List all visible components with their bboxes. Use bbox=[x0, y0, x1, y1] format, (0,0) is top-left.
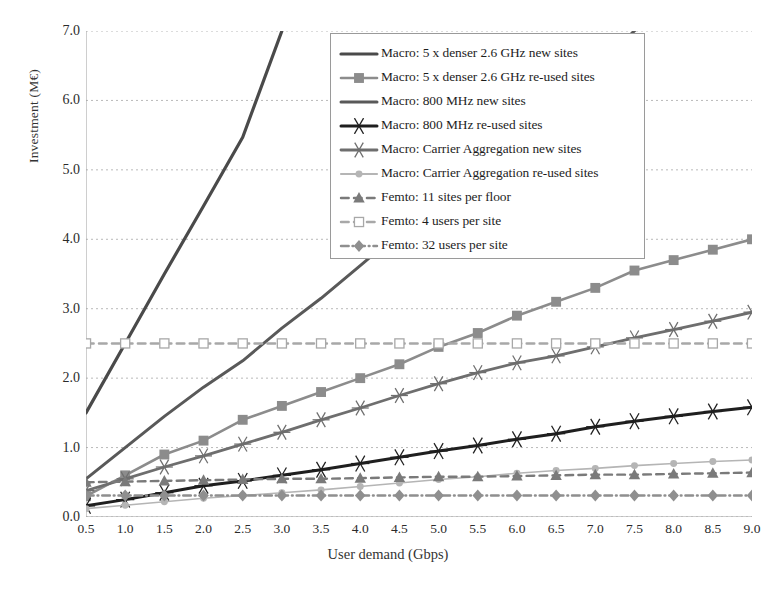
data-point-marker bbox=[199, 436, 209, 446]
series-6 bbox=[86, 467, 752, 487]
data-point-marker bbox=[391, 388, 408, 403]
legend-label: Macro: Carrier Aggregation new sites bbox=[381, 141, 582, 157]
legend-swatch bbox=[339, 166, 379, 180]
data-point-marker bbox=[350, 143, 367, 158]
data-point-marker bbox=[669, 255, 679, 265]
legend-item[interactable]: Femto: 32 users per site bbox=[339, 233, 638, 257]
data-point-marker bbox=[704, 314, 721, 329]
legend-swatch bbox=[339, 214, 379, 228]
data-point-marker bbox=[355, 373, 365, 383]
data-point-marker bbox=[670, 460, 677, 467]
legend-label: Femto: 4 users per site bbox=[381, 213, 501, 229]
x-tick-label: 0.5 bbox=[78, 521, 95, 537]
data-point-marker bbox=[350, 118, 368, 134]
data-point-marker bbox=[473, 339, 482, 348]
data-point-marker bbox=[625, 413, 643, 429]
data-point-marker bbox=[747, 339, 752, 348]
data-point-marker bbox=[121, 339, 130, 348]
x-tick-label: 8.5 bbox=[704, 521, 721, 537]
data-point-marker bbox=[668, 490, 678, 502]
legend-swatch-icon bbox=[339, 166, 379, 182]
data-point-marker bbox=[508, 355, 525, 370]
legend-label: Macro: 800 MHz re-used sites bbox=[381, 117, 542, 133]
x-tick-label: 1.0 bbox=[117, 521, 134, 537]
legend-swatch bbox=[339, 142, 379, 156]
data-point-marker bbox=[512, 490, 522, 502]
legend-swatch-icon bbox=[339, 46, 379, 62]
data-point-marker bbox=[356, 171, 363, 178]
legend-label: Macro: 800 MHz new sites bbox=[381, 93, 526, 109]
legend-item[interactable]: Macro: Carrier Aggregation new sites bbox=[339, 137, 638, 161]
x-tick-label: 3.0 bbox=[273, 521, 290, 537]
data-point-marker bbox=[234, 437, 251, 452]
x-tick-label: 7.5 bbox=[626, 521, 643, 537]
legend-swatch-icon bbox=[339, 70, 379, 86]
data-point-marker bbox=[551, 490, 561, 502]
data-point-marker bbox=[316, 339, 325, 348]
y-tick-label: 6.0 bbox=[63, 92, 81, 108]
x-tick-label: 6.0 bbox=[509, 521, 526, 537]
series-line bbox=[86, 31, 282, 413]
data-point-marker bbox=[547, 426, 565, 442]
y-axis-ticks: 0.01.02.03.04.05.06.07.0 bbox=[30, 31, 80, 517]
y-tick-label: 3.0 bbox=[63, 301, 81, 317]
data-point-marker bbox=[313, 412, 330, 427]
series-5 bbox=[86, 457, 752, 513]
data-point-marker bbox=[277, 339, 286, 348]
chart-figure: Investment (M€) 0.01.02.03.04.05.06.07.0… bbox=[0, 0, 776, 591]
data-point-marker bbox=[708, 245, 718, 255]
legend-item[interactable]: Macro: 5 x denser 2.6 GHz re-used sites bbox=[339, 65, 638, 89]
x-tick-label: 2.5 bbox=[234, 521, 251, 537]
legend-item[interactable]: Macro: 5 x denser 2.6 GHz new sites bbox=[339, 41, 638, 65]
data-point-marker bbox=[630, 266, 640, 276]
legend-label: Macro: 5 x denser 2.6 GHz re-used sites bbox=[381, 69, 595, 85]
data-point-marker bbox=[586, 419, 604, 435]
x-tick-label: 5.0 bbox=[430, 521, 447, 537]
data-point-marker bbox=[86, 339, 91, 348]
data-point-marker bbox=[665, 408, 683, 424]
y-tick-label: 1.0 bbox=[63, 440, 81, 456]
data-point-marker bbox=[195, 449, 212, 464]
data-point-marker bbox=[708, 490, 718, 502]
x-axis-label: User demand (Gbps) bbox=[0, 546, 776, 563]
legend-swatch bbox=[339, 118, 379, 132]
legend-swatch bbox=[339, 94, 379, 108]
data-point-marker bbox=[159, 450, 169, 460]
x-tick-label: 5.5 bbox=[469, 521, 486, 537]
data-point-marker bbox=[708, 339, 717, 348]
data-point-marker bbox=[630, 339, 639, 348]
data-point-marker bbox=[156, 460, 173, 475]
series-7 bbox=[86, 339, 752, 348]
data-point-marker bbox=[199, 339, 208, 348]
data-point-marker bbox=[395, 339, 404, 348]
data-point-marker bbox=[237, 490, 247, 502]
legend-label: Macro: 5 x denser 2.6 GHz new sites bbox=[381, 45, 578, 61]
legend-item[interactable]: Femto: 4 users per site bbox=[339, 209, 638, 233]
data-point-marker bbox=[354, 217, 363, 226]
x-axis-ticks: 0.51.01.52.02.53.03.54.04.55.05.56.06.57… bbox=[86, 521, 752, 545]
y-tick-label: 5.0 bbox=[63, 162, 81, 178]
x-tick-label: 9.0 bbox=[744, 521, 761, 537]
data-point-marker bbox=[122, 502, 129, 509]
legend-item[interactable]: Macro: 800 MHz re-used sites bbox=[339, 113, 638, 137]
data-point-marker bbox=[354, 73, 364, 83]
data-point-marker bbox=[704, 404, 722, 420]
data-point-marker bbox=[238, 339, 247, 348]
chart-legend: Macro: 5 x denser 2.6 GHz new sitesMacro… bbox=[330, 33, 645, 259]
x-tick-label: 8.0 bbox=[665, 521, 682, 537]
legend-swatch-icon bbox=[339, 118, 379, 134]
legend-item[interactable]: Femto: 11 sites per floor bbox=[339, 185, 638, 209]
data-point-marker bbox=[352, 401, 369, 416]
data-point-marker bbox=[590, 283, 600, 293]
x-tick-label: 2.0 bbox=[195, 521, 212, 537]
legend-item[interactable]: Macro: 800 MHz new sites bbox=[339, 89, 638, 113]
data-point-marker bbox=[552, 339, 561, 348]
data-point-marker bbox=[473, 490, 483, 502]
x-tick-label: 1.5 bbox=[156, 521, 173, 537]
data-point-marker bbox=[669, 339, 678, 348]
data-point-marker bbox=[749, 457, 752, 464]
data-point-marker bbox=[743, 399, 752, 415]
data-point-marker bbox=[629, 490, 639, 502]
legend-item[interactable]: Macro: Carrier Aggregation re-used sites bbox=[339, 161, 638, 185]
data-point-marker bbox=[273, 425, 290, 440]
